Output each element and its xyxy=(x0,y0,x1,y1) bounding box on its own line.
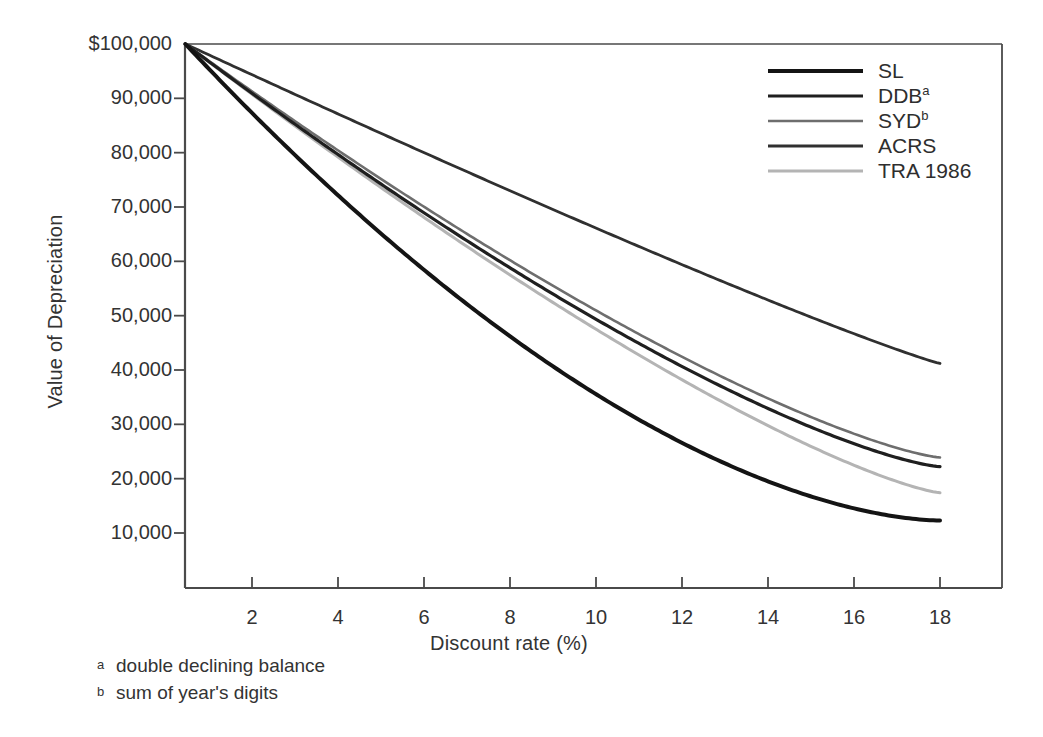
legend-swatch-tra-1986 xyxy=(768,164,863,178)
legend-label: TRA 1986 xyxy=(878,160,971,181)
footnote-text: sum of year's digits xyxy=(116,683,278,704)
footnote-marker: b xyxy=(97,683,111,698)
footnote-text: double declining balance xyxy=(116,656,325,677)
depreciation-chart-figure: Value of Depreciation Discount rate (%) … xyxy=(0,0,1043,737)
legend-swatch-syd xyxy=(768,114,863,128)
chart-footnotes: adouble declining balancebsum of year's … xyxy=(97,656,325,710)
legend-item-acrs[interactable]: ACRS xyxy=(768,133,988,158)
x-axis-ticks xyxy=(252,577,940,588)
footnote-b: bsum of year's digits xyxy=(97,683,325,710)
legend-label: ACRS xyxy=(878,135,936,156)
legend-swatch-ddb xyxy=(768,89,863,103)
legend-label: SYDb xyxy=(878,110,928,131)
legend-swatch-sl xyxy=(768,64,863,78)
footnote-a: adouble declining balance xyxy=(97,656,325,683)
legend-swatch-acrs xyxy=(768,139,863,153)
legend-superscript: a xyxy=(922,83,929,98)
legend-label: SL xyxy=(878,60,904,81)
y-axis-ticks xyxy=(174,98,185,533)
legend-item-ddb[interactable]: DDBa xyxy=(768,83,988,108)
legend-item-sl[interactable]: SL xyxy=(768,58,988,83)
legend-superscript: b xyxy=(921,108,928,123)
chart-legend: SLDDBaSYDbACRSTRA 1986 xyxy=(768,58,988,183)
legend-item-tra-1986[interactable]: TRA 1986 xyxy=(768,158,988,183)
legend-item-syd[interactable]: SYDb xyxy=(768,108,988,133)
footnote-marker: a xyxy=(97,656,111,671)
legend-label: DDBa xyxy=(878,85,930,106)
